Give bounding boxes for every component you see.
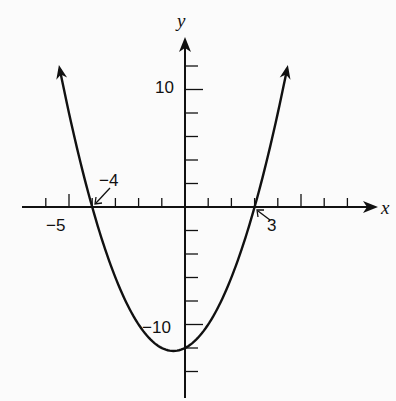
y-tick-label-10: 10 [155,78,174,97]
root-label-minus4: −4 [99,171,118,190]
root-pointer-right-arrow-icon [257,210,270,220]
chart-container: x y −5 10 −10 −4 3 [0,0,396,401]
root-pointer-left-arrow-icon [95,188,110,204]
y-axis-ticks [185,66,203,372]
y-axis-label: y [175,10,186,31]
x-axis-label: x [380,197,390,218]
parabola-curve [60,69,287,351]
parabola-plot: x y −5 10 −10 −4 3 [0,0,396,401]
x-tick-label-minus5: −5 [46,216,65,235]
y-tick-label-minus10: −10 [142,318,171,337]
